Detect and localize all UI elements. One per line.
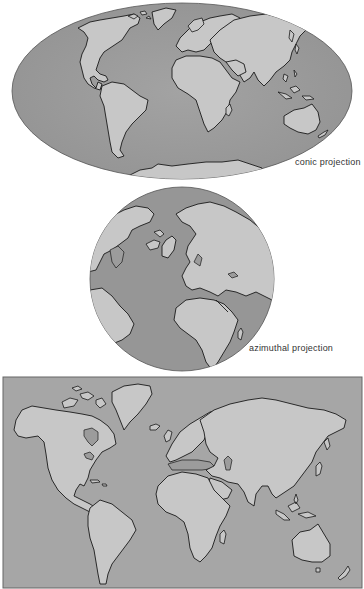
azimuthal-eurasia (176, 202, 280, 300)
azimuthal-projection-label: azimuthal projection (249, 343, 333, 353)
rect-tasmania (316, 568, 320, 572)
conic-projection-label: conic projection (295, 157, 361, 167)
cylindrical-projection-map (3, 377, 362, 588)
